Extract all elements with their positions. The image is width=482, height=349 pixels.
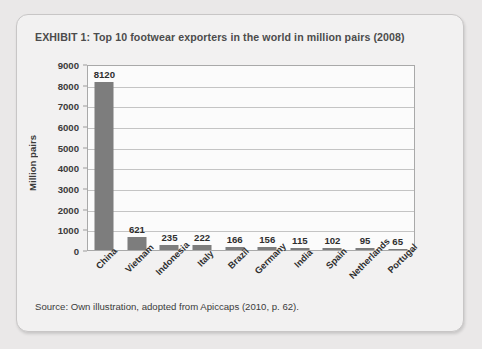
bar-value-label: 95 <box>360 235 371 246</box>
bar-slot: 95 <box>349 66 382 250</box>
source-note: Source: Own illustration, adopted from A… <box>35 301 299 312</box>
y-axis-tick-labels: 9000800070006000500040003000200010000 <box>43 65 83 251</box>
bar-slot: 156 <box>251 66 284 250</box>
bar-value-label: 102 <box>324 235 340 246</box>
y-axis-tick-label: 8000 <box>58 80 79 91</box>
y-axis-tick-label: 1000 <box>58 225 79 236</box>
y-axis-tick-label: 3000 <box>58 184 79 195</box>
bar-value-label: 156 <box>259 234 275 245</box>
bar-chart: Million pairs 90008000700060005000400030… <box>17 53 465 293</box>
bar-slot: 102 <box>316 66 349 250</box>
bar-slot: 222 <box>186 66 219 250</box>
bar-value-label: 235 <box>161 232 177 243</box>
page-title: EXHIBIT 1: Top 10 footwear exporters in … <box>35 31 405 43</box>
y-axis-tick-label: 4000 <box>58 163 79 174</box>
plot-area: 81206212352221661561151029565 <box>87 65 415 251</box>
y-axis-tick-label: 7000 <box>58 101 79 112</box>
bar-slot: 166 <box>218 66 251 250</box>
y-axis-tick-label: 0 <box>74 246 79 257</box>
bar-slot: 65 <box>381 66 414 250</box>
bar-slot: 235 <box>153 66 186 250</box>
bar-series: 81206212352221661561151029565 <box>88 66 414 250</box>
y-axis-tick-label: 2000 <box>58 204 79 215</box>
bar-slot: 115 <box>284 66 317 250</box>
bar-value-label: 115 <box>292 235 307 246</box>
x-axis-slot: Portugal <box>382 253 415 313</box>
bar-value-label: 65 <box>392 236 403 247</box>
bar <box>95 82 114 250</box>
bar-slot: 8120 <box>88 66 121 250</box>
bar-value-label: 621 <box>129 224 145 235</box>
x-axis-slot: Spain <box>317 253 350 313</box>
y-axis-tick-label: 9000 <box>58 60 79 71</box>
bar-slot: 621 <box>121 66 154 250</box>
y-axis-tick-label: 6000 <box>58 122 79 133</box>
x-axis-tick-label: Italy <box>195 248 215 268</box>
bar-value-label: 8120 <box>94 69 115 80</box>
bar-value-label: 166 <box>227 234 243 245</box>
y-axis-title: Million pairs <box>27 113 41 213</box>
y-axis-tick-label: 5000 <box>58 142 79 153</box>
bar-value-label: 222 <box>194 232 210 243</box>
exhibit-card: EXHIBIT 1: Top 10 footwear exporters in … <box>16 14 464 332</box>
x-axis-slot: Netherlands <box>349 253 382 313</box>
